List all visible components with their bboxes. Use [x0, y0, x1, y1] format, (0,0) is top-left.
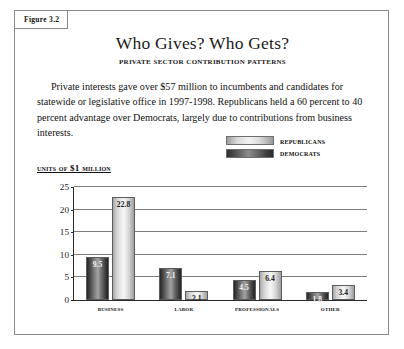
bar-democrats-labor[interactable]: 7.1 [159, 268, 182, 300]
bars-layer: 9.522.8Business7.12.1Labor4.56.4Professi… [74, 187, 367, 300]
chart-legend: Republicans Democrats [226, 135, 376, 160]
title-block: Who Gives? Who Gets? Private Sector Cont… [15, 33, 390, 66]
bar-chart: 0510152025 9.522.8Business7.12.1Labor4.5… [45, 181, 375, 323]
bar-value-label: 3.4 [338, 288, 348, 297]
y-axis-tick-label: 20 [60, 205, 69, 215]
bar-group: 9.522.8Business [74, 187, 147, 300]
units-axis-label: Units of $1 Million [37, 163, 111, 173]
x-axis-tick-label: Labor [174, 304, 193, 313]
bar-republicans-other[interactable]: 3.4 [332, 285, 355, 300]
bar-value-label: 6.4 [265, 274, 275, 283]
y-axis-tick-label: 0 [64, 295, 69, 305]
y-axis-tick-label: 10 [60, 250, 69, 260]
bar-democrats-other[interactable]: 1.8 [306, 292, 329, 300]
bar-group: 7.12.1Labor [147, 187, 220, 300]
legend-item-democrats: Democrats [226, 148, 376, 159]
y-axis-tick-mark [71, 300, 74, 301]
bar-value-label: 7.1 [166, 271, 176, 280]
bar-republicans-labor[interactable]: 2.1 [185, 291, 208, 300]
bar-democrats-professionals[interactable]: 4.5 [233, 280, 256, 300]
bar-democrats-business[interactable]: 9.5 [86, 257, 109, 300]
bar-value-label: 22.8 [117, 200, 131, 209]
y-axis-tick-label: 25 [60, 182, 69, 192]
bar-value-label: 9.5 [93, 260, 103, 269]
bar-republicans-professionals[interactable]: 6.4 [259, 271, 282, 300]
page-title: Who Gives? Who Gets? [15, 33, 390, 53]
description-paragraph: Private interests gave over $57 million … [37, 79, 369, 140]
legend-swatch-republicans-icon [226, 136, 274, 145]
plot-area: 0510152025 9.522.8Business7.12.1Labor4.5… [73, 187, 367, 301]
bar-republicans-business[interactable]: 22.8 [112, 197, 135, 300]
figure-number-tag: Figure 3.2 [15, 11, 68, 29]
y-axis-tick-label: 15 [60, 227, 69, 237]
bar-value-label: 1.8 [312, 295, 322, 304]
bar-value-label: 4.5 [239, 283, 249, 292]
bar-group: 1.83.4Other [294, 187, 367, 300]
x-axis-tick-label: Professionals [235, 304, 279, 313]
legend-item-republicans: Republicans [226, 135, 376, 146]
legend-label-democrats: Democrats [280, 148, 320, 158]
page-subtitle: Private Sector Contribution Patterns [15, 55, 390, 66]
legend-label-republicans: Republicans [280, 136, 325, 146]
bar-value-label: 2.1 [192, 294, 202, 303]
legend-swatch-democrats-icon [226, 149, 274, 158]
figure-frame: Figure 3.2 Who Gives? Who Gets? Private … [14, 10, 389, 335]
y-axis-tick-label: 5 [64, 272, 69, 282]
x-axis-tick-label: Business [98, 304, 124, 313]
x-axis-tick-label: Other [321, 304, 340, 313]
bar-group: 4.56.4Professionals [221, 187, 294, 300]
